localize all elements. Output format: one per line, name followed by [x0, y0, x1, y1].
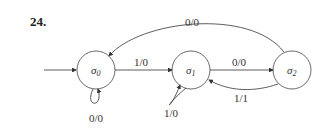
edge-label: 1/0 [164, 107, 179, 119]
edge-s1-s1 [169, 85, 186, 105]
state-s0: σ0 [77, 51, 115, 89]
edge-s2-s1 [209, 80, 278, 90]
edge-s0-s0 [91, 89, 100, 103]
edge-label: 0/0 [232, 56, 247, 68]
state-s1: σ1 [172, 51, 210, 89]
edge-label: 0/0 [89, 112, 104, 124]
edge-s2-s0 [109, 24, 284, 56]
edge-label: 1/0 [134, 56, 149, 68]
edge-label: 1/1 [234, 92, 248, 104]
edge-label: 0/0 [185, 16, 200, 28]
state-s2: σ2 [273, 51, 311, 89]
state-diagram: σ0 σ1 σ2 0/0 1/0 1/0 0/0 1/1 0/0 [0, 0, 327, 131]
